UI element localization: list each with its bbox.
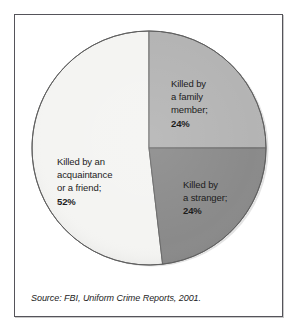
pie-label-family: Killed by a family member; 24%	[171, 77, 208, 130]
pie-label-stranger-percent: 24%	[183, 204, 227, 217]
figure-root: Killed by a family member; 24% Killed by…	[0, 0, 299, 332]
figure-frame: Killed by a family member; 24% Killed by…	[14, 14, 283, 317]
source-note-prefix: Source: FBI,	[31, 293, 83, 303]
pie-label-acquaintance: Killed by an acquaintance or a friend; 5…	[57, 155, 112, 208]
source-note-work-title: Uniform Crime Reports	[83, 293, 174, 303]
pie-label-family-percent: 24%	[171, 117, 208, 130]
source-note: Source: FBI, Uniform Crime Reports, 2001…	[31, 292, 201, 304]
pie-label-acquaintance-line1: Killed by an	[57, 155, 112, 168]
pie-label-stranger-line1: Killed by	[183, 178, 227, 191]
pie-label-family-line1: Killed by	[171, 77, 208, 90]
pie-label-acquaintance-line2: acquaintance	[57, 168, 112, 181]
pie-label-acquaintance-line3: or a friend;	[57, 181, 112, 194]
pie-label-acquaintance-percent: 52%	[57, 195, 112, 208]
pie-label-stranger: Killed by a stranger; 24%	[183, 178, 227, 218]
pie-label-stranger-line2: a stranger;	[183, 191, 227, 204]
pie-shading-overlay	[32, 31, 266, 265]
pie-label-family-line2: a family	[171, 90, 208, 103]
pie-chart-graphic	[17, 17, 282, 275]
pie-label-family-line3: member;	[171, 103, 208, 116]
source-note-suffix: , 2001.	[174, 293, 201, 303]
pie-chart-area: Killed by a family member; 24% Killed by…	[15, 15, 284, 277]
